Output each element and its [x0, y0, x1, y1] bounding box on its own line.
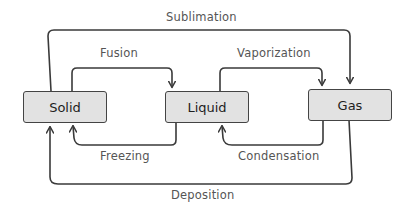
- vaporization-arrow: [220, 68, 322, 91]
- node-solid[interactable]: Solid: [23, 91, 107, 123]
- node-gas-label: Gas: [338, 98, 363, 113]
- node-liquid[interactable]: Liquid: [165, 91, 249, 123]
- freezing-arrow: [73, 122, 176, 145]
- node-solid-label: Solid: [49, 100, 81, 115]
- fusion-arrow: [72, 68, 172, 91]
- deposition-label: Deposition: [171, 188, 234, 202]
- node-gas[interactable]: Gas: [308, 89, 392, 121]
- condensation-arrow: [222, 120, 323, 145]
- condensation-label: Condensation: [238, 149, 320, 163]
- freezing-label: Freezing: [100, 149, 150, 163]
- sublimation-arrow: [48, 30, 350, 91]
- node-liquid-label: Liquid: [187, 100, 226, 115]
- sublimation-label: Sublimation: [166, 10, 237, 24]
- vaporization-label: Vaporization: [237, 46, 311, 60]
- fusion-label: Fusion: [100, 46, 138, 60]
